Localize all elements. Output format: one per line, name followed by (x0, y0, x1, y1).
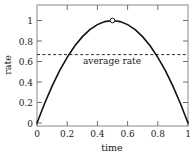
y-tick-label-0-8: 0.8 (19, 37, 34, 47)
y-tick-label-1: 1 (27, 16, 33, 26)
x-tick-label-1: 1 (185, 129, 191, 139)
rate-vs-time-plot: 1 0.8 0.6 0.4 0.2 0 0 0.2 0.4 0.6 0.8 1 … (0, 0, 195, 155)
average-rate-label: average rate (83, 56, 141, 66)
peak-marker (110, 18, 115, 23)
x-axis-title: time (101, 142, 123, 153)
x-tick-label-0-4: 0.4 (90, 129, 105, 139)
y-tick-label-0-2: 0.2 (19, 98, 33, 108)
y-tick-label-0-4: 0.4 (19, 78, 34, 88)
x-tick-label-0-8: 0.8 (151, 129, 166, 139)
x-tick-label-0: 0 (34, 129, 40, 139)
chart-figure: 1 0.8 0.6 0.4 0.2 0 0 0.2 0.4 0.6 0.8 1 … (0, 0, 195, 155)
y-tick-label-0: 0 (27, 119, 33, 129)
y-tick-label-0-6: 0.6 (19, 57, 34, 67)
y-axis-title: rate (2, 55, 13, 75)
x-tick-label-0-2: 0.2 (60, 129, 74, 139)
x-tick-label-0-6: 0.6 (120, 129, 135, 139)
